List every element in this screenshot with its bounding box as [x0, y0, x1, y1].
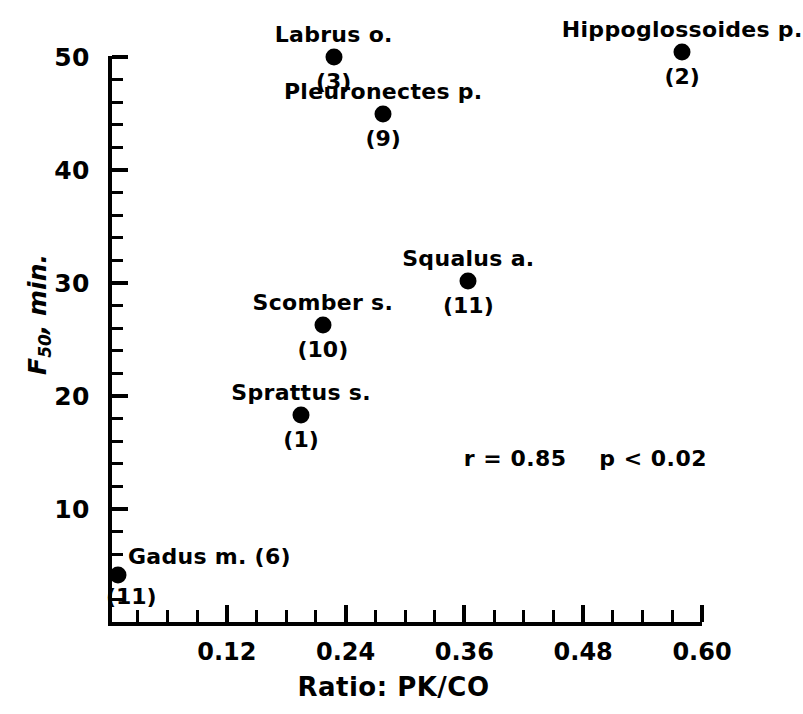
x-tick-minor — [314, 610, 317, 622]
y-tick-minor — [112, 191, 123, 194]
y-tick-minor — [112, 327, 123, 330]
y-tick-major — [112, 507, 128, 511]
data-point — [109, 566, 126, 583]
y-tick-label: 50 — [18, 45, 90, 70]
x-axis-title: Ratio: PK/CO — [0, 672, 787, 702]
data-point — [325, 49, 342, 66]
x-tick-major — [344, 605, 348, 622]
data-point-label: Hippoglossoides p. — [562, 19, 803, 41]
x-tick-minor — [166, 610, 169, 622]
data-point-label: Labrus o. — [275, 24, 393, 46]
x-tick-major — [225, 605, 229, 622]
x-tick-minor — [493, 610, 496, 622]
data-point-label: Gadus m. (6) — [128, 546, 291, 568]
data-point-label: Scomber s. — [253, 292, 394, 314]
y-tick-minor — [112, 485, 123, 488]
y-tick-minor — [112, 417, 123, 420]
y-axis-title-rest: , min. — [23, 254, 52, 334]
y-axis-line — [108, 56, 112, 626]
y-tick-minor — [112, 372, 123, 375]
data-point-count: (11) — [443, 295, 494, 317]
x-tick-label: 0.36 — [409, 640, 519, 664]
x-tick-minor — [433, 610, 436, 622]
x-axis-line — [108, 622, 702, 626]
x-tick-major — [581, 605, 585, 622]
x-tick-minor — [611, 610, 614, 622]
y-tick-minor — [112, 78, 123, 81]
x-tick-minor — [552, 610, 555, 622]
statistics-annotation: r = 0.85 p < 0.02 — [464, 446, 707, 471]
y-tick-minor — [112, 440, 123, 443]
data-point-label: Pleuronectes p. — [284, 81, 483, 103]
data-point — [460, 272, 477, 289]
data-point-label: Squalus a. — [402, 248, 534, 270]
data-point-count: (10) — [297, 339, 348, 361]
y-tick-label: 10 — [18, 497, 90, 522]
x-tick-label: 0.60 — [647, 640, 757, 664]
y-axis-title-base: F — [23, 358, 52, 375]
x-tick-minor — [374, 610, 377, 622]
x-tick-label: 0.48 — [528, 640, 638, 664]
x-tick-major — [700, 605, 704, 622]
y-tick-minor — [112, 462, 123, 465]
data-point-count: (2) — [664, 66, 699, 88]
y-tick-minor — [112, 530, 123, 533]
data-point — [375, 105, 392, 122]
y-tick-minor — [112, 349, 123, 352]
x-tick-minor — [196, 610, 199, 622]
y-tick-minor — [112, 236, 123, 239]
x-tick-major — [462, 605, 466, 622]
y-tick-major — [112, 168, 128, 172]
x-tick-minor — [285, 610, 288, 622]
x-tick-minor — [671, 610, 674, 622]
y-tick-major — [112, 55, 128, 59]
x-tick-minor — [641, 610, 644, 622]
x-tick-minor — [136, 610, 139, 622]
y-tick-label: 40 — [18, 158, 90, 183]
data-point-count: (1) — [283, 429, 318, 451]
y-tick-minor — [112, 101, 123, 104]
data-point-count: (11) — [106, 586, 157, 608]
y-tick-major — [112, 394, 128, 398]
y-tick-minor — [112, 259, 123, 262]
x-tick-minor — [404, 610, 407, 622]
x-tick-minor — [255, 610, 258, 622]
y-tick-minor — [112, 304, 123, 307]
data-point — [674, 44, 691, 61]
data-point — [293, 407, 310, 424]
y-axis-title-subscript: 50 — [35, 334, 55, 358]
y-axis-title: F50, min. — [23, 230, 52, 400]
y-tick-minor — [112, 214, 123, 217]
data-point-label: Sprattus s. — [231, 382, 371, 404]
data-point-count: (9) — [366, 128, 401, 150]
data-point — [314, 316, 331, 333]
x-tick-minor — [522, 610, 525, 622]
x-tick-label: 0.12 — [172, 640, 282, 664]
x-tick-label: 0.24 — [291, 640, 401, 664]
y-tick-minor — [112, 553, 123, 556]
y-tick-major — [112, 281, 128, 285]
y-tick-minor — [112, 146, 123, 149]
y-tick-minor — [112, 123, 123, 126]
